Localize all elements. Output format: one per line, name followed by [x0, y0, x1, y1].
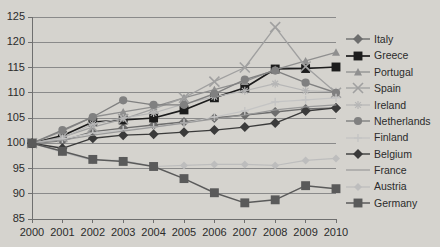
data-point-marker — [302, 96, 310, 104]
legend-marker-icon — [345, 113, 371, 129]
x-tick-label: 2010 — [316, 226, 356, 238]
y-tick-label: 110 — [0, 86, 25, 98]
data-point-marker — [270, 107, 280, 117]
legend-label: Finland — [374, 132, 408, 143]
data-point-marker — [89, 120, 97, 128]
data-point-marker — [241, 87, 249, 95]
data-point-marker — [270, 22, 280, 32]
legend-label: Spain — [374, 83, 401, 94]
legend-label: Greece — [374, 50, 408, 61]
y-tick-label: 100 — [0, 136, 25, 148]
data-point-marker — [270, 118, 280, 128]
data-point-marker — [209, 77, 219, 87]
data-point-marker — [119, 96, 127, 104]
chart-legend: ItalyGreecePortugalSpainIrelandNetherlan… — [345, 31, 440, 211]
data-point-marker — [271, 80, 279, 88]
y-tick-label: 85 — [0, 212, 25, 224]
data-point-marker — [302, 87, 310, 95]
data-point-marker — [241, 76, 249, 84]
data-point-marker — [150, 101, 158, 109]
data-point-marker — [210, 188, 219, 197]
legend-key-svg — [345, 162, 371, 178]
data-point-marker — [271, 98, 279, 106]
legend-marker-icon — [345, 48, 371, 64]
legend-marker-icon — [345, 31, 371, 47]
legend-marker — [354, 183, 362, 191]
legend-item-netherlands[interactable]: Netherlands — [345, 113, 440, 129]
data-point-marker — [119, 114, 127, 122]
data-point-marker — [210, 90, 218, 98]
legend-item-austria[interactable]: Austria — [345, 179, 440, 195]
legend-marker-icon — [345, 195, 371, 211]
legend-label: Germany — [374, 198, 417, 209]
data-point-marker — [240, 122, 250, 132]
y-tick-label: 90 — [0, 187, 25, 199]
legend-label: Italy — [374, 34, 393, 45]
legend-item-france[interactable]: France — [345, 162, 440, 178]
data-point-marker — [332, 48, 340, 55]
data-point-marker — [240, 198, 249, 207]
legend-key-svg — [345, 97, 371, 113]
data-point-marker — [332, 154, 340, 162]
legend-item-germany[interactable]: Germany — [345, 195, 440, 211]
data-point-marker — [271, 195, 280, 204]
y-tick-label: 95 — [0, 162, 25, 174]
data-point-marker — [301, 181, 310, 190]
legend-item-spain[interactable]: Spain — [345, 80, 440, 96]
data-point-marker — [89, 113, 97, 121]
data-point-marker — [150, 109, 158, 117]
legend-marker — [354, 117, 362, 125]
data-point-marker — [302, 79, 310, 87]
legend-item-finland[interactable]: Finland — [345, 129, 440, 145]
data-point-marker — [58, 126, 66, 134]
legend-label: France — [374, 165, 407, 176]
data-point-marker — [241, 160, 249, 168]
data-point-marker — [179, 127, 189, 137]
legend-marker-icon — [345, 80, 371, 96]
legend-marker-icon — [345, 64, 371, 80]
legend-marker-icon — [345, 179, 371, 195]
legend-label: Belgium — [374, 149, 412, 160]
data-point-marker — [209, 125, 219, 135]
legend-marker-icon — [345, 130, 371, 146]
data-point-marker — [210, 160, 218, 168]
data-point-marker — [58, 147, 67, 156]
legend-key-svg — [345, 146, 371, 162]
legend-item-italy[interactable]: Italy — [345, 31, 440, 47]
y-tick-label: 105 — [0, 111, 25, 123]
data-point-marker — [119, 157, 128, 166]
chart-container: 859095100105110115120125 200020012002200… — [0, 0, 440, 247]
legend-label: Austria — [374, 181, 407, 192]
data-series-layer — [27, 22, 341, 207]
legend-item-ireland[interactable]: Ireland — [345, 97, 440, 113]
legend-label: Netherlands — [374, 116, 431, 127]
legend-item-belgium[interactable]: Belgium — [345, 146, 440, 162]
legend-marker — [353, 34, 363, 44]
legend-marker — [354, 101, 362, 109]
data-point-marker — [180, 101, 188, 109]
data-point-marker — [332, 184, 341, 193]
legend-key-svg — [345, 179, 371, 195]
data-point-marker — [88, 155, 97, 164]
legend-key-svg — [345, 195, 371, 211]
data-point-marker — [332, 63, 341, 72]
data-point-marker — [271, 66, 279, 74]
legend-key-svg — [345, 64, 371, 80]
y-tick-label: 120 — [0, 35, 25, 47]
legend-marker — [354, 51, 363, 60]
legend-key-svg — [345, 80, 371, 96]
legend-item-greece[interactable]: Greece — [345, 47, 440, 63]
y-tick-label: 125 — [0, 10, 25, 22]
legend-key-svg — [345, 113, 371, 129]
legend-label: Portugal — [374, 67, 413, 78]
data-point-marker — [180, 174, 189, 183]
legend-key-svg — [345, 48, 371, 64]
legend-label: Ireland — [374, 100, 406, 111]
legend-key-svg — [345, 130, 371, 146]
legend-marker — [354, 199, 363, 208]
data-point-marker — [28, 139, 37, 148]
legend-item-portugal[interactable]: Portugal — [345, 64, 440, 80]
legend-marker-icon — [345, 162, 371, 178]
y-tick-label: 115 — [0, 61, 25, 73]
series-germany — [28, 139, 341, 207]
